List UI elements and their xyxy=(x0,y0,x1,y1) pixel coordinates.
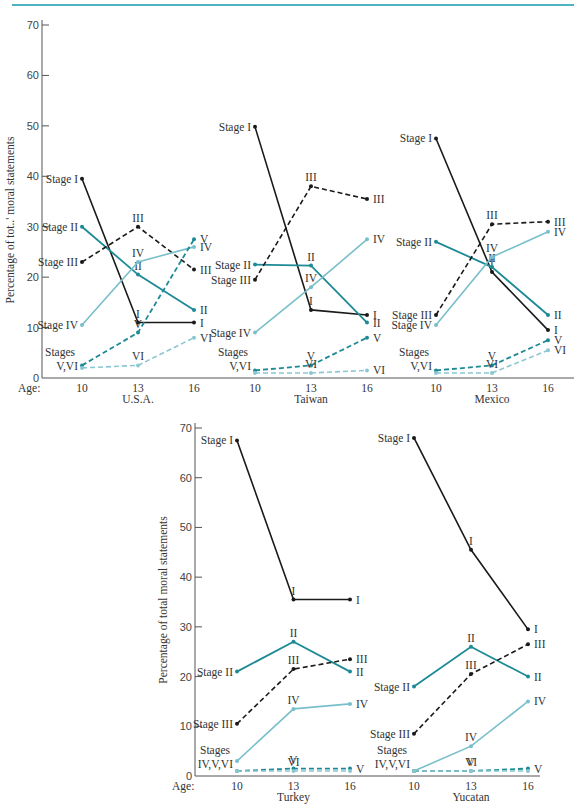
x-tick-label: 16 xyxy=(542,382,554,394)
panel-title: Yucatan xyxy=(452,791,489,803)
series-end-label: III xyxy=(200,264,212,276)
series-iv xyxy=(237,704,350,761)
series-mid-label: III xyxy=(305,171,317,183)
series-mid-label: I xyxy=(469,535,473,547)
series-end-label: III xyxy=(356,653,368,665)
series-mid-label: VI xyxy=(486,358,498,370)
series-mid-label: II xyxy=(307,251,315,263)
moral-stages-chart: 010203040506070010203040506070Percentage… xyxy=(0,0,574,807)
y-axis-label: Percentage of total moral statements xyxy=(157,516,170,684)
series-end-label: V xyxy=(534,763,543,775)
series-mid-label: IV xyxy=(465,731,478,743)
series-start-label: Stage II xyxy=(374,681,410,694)
series-end-label: VI xyxy=(554,344,566,356)
series-mid-label: VI xyxy=(305,358,317,370)
x-tick-label: 10 xyxy=(76,382,88,394)
series-start-label: Stage III xyxy=(193,718,233,731)
series-end-label: II xyxy=(373,317,381,329)
age-label: Age: xyxy=(18,382,40,395)
series-end-label: II xyxy=(554,309,562,321)
series-start-label: Stage III xyxy=(38,256,78,269)
series-mid-label: III xyxy=(132,212,144,224)
y-tick-label: 40 xyxy=(180,571,192,583)
series-start-label: Stage II xyxy=(197,666,233,679)
y-tick-label: 60 xyxy=(180,472,192,484)
series-start-label: Stage I xyxy=(201,434,233,447)
series-mid-label: II xyxy=(467,632,475,644)
series-mid-label: I xyxy=(309,295,313,307)
series-start-label: Stage III xyxy=(370,728,410,741)
series-end-label: IV xyxy=(554,226,567,238)
y-tick-label: 40 xyxy=(27,170,39,182)
panel-usa: 101316U.S.A.IIStage IIIIIStage IIIIIIIIS… xyxy=(37,173,212,405)
svg-text:IV,V,VI: IV,V,VI xyxy=(198,758,234,771)
series-end-label: V xyxy=(356,763,365,775)
series-end-label: V xyxy=(200,233,209,245)
series-mid-label: I xyxy=(292,585,296,597)
series-mid-label: IV xyxy=(486,242,499,254)
series-mid-label: IV xyxy=(287,694,300,706)
series-end-label: II xyxy=(356,666,364,678)
svg-text:IV,V,VI: IV,V,VI xyxy=(375,758,411,771)
series-mid-label: VI xyxy=(465,756,477,768)
y-tick-label: 30 xyxy=(27,221,39,233)
age-label: Age: xyxy=(172,780,194,793)
panel-turkey: 101316TurkeyIIStage IIIIIStage IIIIIIIIS… xyxy=(193,434,369,804)
svg-text:Stages: Stages xyxy=(218,346,249,359)
series-mid-label: IV xyxy=(305,272,318,284)
series-end-label: I xyxy=(356,594,360,606)
x-tick-label: 16 xyxy=(361,382,373,394)
series-start-label: Stage II xyxy=(396,236,432,249)
series-mid-label: VI xyxy=(132,350,144,362)
panel-title: Taiwan xyxy=(294,393,328,405)
series-mid-label: III xyxy=(288,654,300,666)
series-end-label: I xyxy=(200,317,204,329)
svg-text:V,VI: V,VI xyxy=(229,360,251,373)
series-mid-label: VI xyxy=(287,756,299,768)
y-tick-label: 20 xyxy=(180,671,192,683)
series-end-label: IV xyxy=(373,233,386,245)
series-end-label: I xyxy=(534,623,538,635)
series-end-label: III xyxy=(373,193,385,205)
y-tick-label: 10 xyxy=(180,720,192,732)
series-mid-label: III xyxy=(465,659,477,671)
y-tick-label: 50 xyxy=(27,120,39,132)
series-start-label: Stage II xyxy=(42,221,78,234)
x-tick-label: 10 xyxy=(249,382,261,394)
svg-text:Stages: Stages xyxy=(377,744,408,757)
panel-yucatan: 101316YucatanIIStage IIIIIStage IIIIIIII… xyxy=(370,432,547,803)
panel-mexico: 101316MexicoIIStage IIIIIStage IIIIIIIIS… xyxy=(391,132,566,405)
y-tick-label: 70 xyxy=(180,422,192,434)
series-start-label: Stage IV xyxy=(391,319,432,332)
series-mid-label: IV xyxy=(132,247,145,259)
svg-text:Stages: Stages xyxy=(200,744,231,757)
x-tick-label: 16 xyxy=(188,382,200,394)
y-tick-label: 50 xyxy=(180,521,192,533)
panel-title: Turkey xyxy=(277,791,310,804)
series-end-label: II xyxy=(200,304,208,316)
series-end-label: V xyxy=(373,332,382,344)
x-tick-label: 16 xyxy=(522,780,534,792)
series-start-label: Stage I xyxy=(400,132,432,145)
panel-title: U.S.A. xyxy=(122,393,154,405)
series-start-label: Stage I xyxy=(46,173,78,186)
x-tick-label: 10 xyxy=(430,382,442,394)
svg-text:Stages: Stages xyxy=(45,346,76,359)
x-tick-label: 10 xyxy=(231,780,243,792)
svg-text:V,VI: V,VI xyxy=(410,360,432,373)
svg-text:Stages: Stages xyxy=(399,346,430,359)
y-tick-label: 30 xyxy=(180,621,192,633)
y-tick-label: 70 xyxy=(27,19,39,31)
series-mid-label: II xyxy=(290,627,298,639)
series-start-label: Stage I xyxy=(219,121,251,134)
x-tick-label: 16 xyxy=(344,780,356,792)
panel-taiwan: 101316TaiwanIIStage IIIIIStage IIIIIIIIS… xyxy=(210,121,385,405)
svg-text:V,VI: V,VI xyxy=(56,360,78,373)
y-tick-label: 20 xyxy=(27,271,39,283)
series-start-label: Stage I xyxy=(378,432,410,445)
series-mid-label: III xyxy=(486,209,498,221)
series-i xyxy=(237,440,350,599)
series-start-label: Stage II xyxy=(215,259,251,272)
panel-title: Mexico xyxy=(474,393,509,405)
series-end-label: III xyxy=(534,638,546,650)
